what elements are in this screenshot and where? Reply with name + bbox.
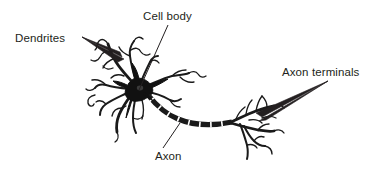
neuron-diagram-canvas: Dendrites Cell body Axon Axon terminals [0,0,387,174]
dendrites-label: Dendrites [15,32,65,44]
cell-body-label: Cell body [143,10,192,22]
axon-terminals-label: Axon terminals [282,66,360,78]
axon-label: Axon [155,150,182,162]
neuron-diagram-figure: Dendrites Cell body Axon Axon terminals [0,0,387,174]
figure-background [0,0,387,174]
